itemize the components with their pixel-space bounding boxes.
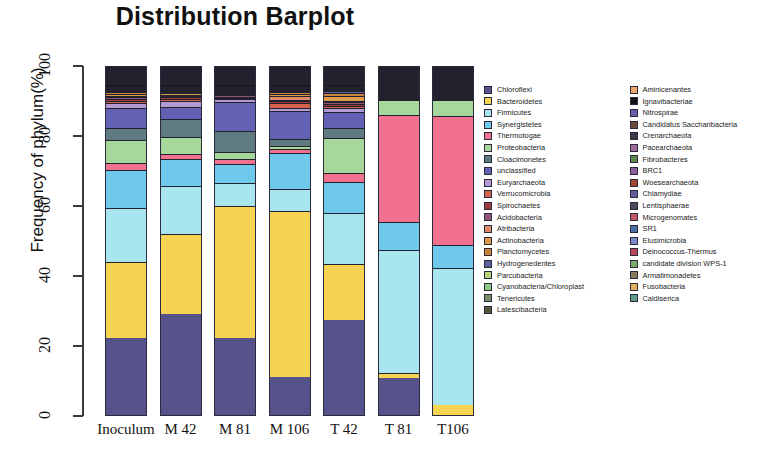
stacked-bar[interactable] [160, 66, 202, 416]
bar-segment[interactable] [433, 100, 473, 116]
bar-segment[interactable] [161, 137, 201, 154]
bar-segment[interactable] [215, 164, 255, 183]
legend-label: BRC1 [643, 167, 663, 174]
legend-item[interactable]: Nitrospirae [630, 107, 775, 119]
legend-item[interactable]: Pacearchaeota [630, 142, 775, 154]
legend-item[interactable]: Cloacimonetes [484, 154, 630, 166]
bar-segment[interactable] [215, 102, 255, 131]
bar-segment[interactable] [161, 107, 201, 119]
bar-segment[interactable] [270, 153, 310, 190]
legend-item[interactable]: Hydrogenedentes [484, 258, 630, 270]
legend-swatch-icon [630, 97, 638, 105]
stacked-bar[interactable] [378, 66, 420, 416]
bar-segment[interactable] [106, 128, 146, 140]
legend-item[interactable]: Armatimonadetes [630, 270, 775, 282]
bar-segment[interactable] [215, 338, 255, 415]
bar-segment[interactable] [324, 138, 364, 173]
bar-segment[interactable] [106, 262, 146, 339]
bar-segment[interactable] [324, 173, 364, 182]
stacked-bar[interactable] [323, 66, 365, 416]
legend-item[interactable]: Tenericutes [484, 293, 630, 305]
bar-segment[interactable] [161, 119, 201, 137]
bar-segment[interactable] [379, 222, 419, 249]
legend-item[interactable]: Synergistetes [484, 119, 630, 131]
legend-item[interactable]: Acidobacteria [484, 212, 630, 224]
bar-segment[interactable] [215, 131, 255, 152]
bar-segment[interactable] [106, 170, 146, 208]
bar-segment[interactable] [270, 377, 310, 415]
bar-segment[interactable] [433, 116, 473, 245]
legend-item[interactable]: Latescibacteria [484, 304, 630, 316]
legend-item[interactable]: Chlamydiae [630, 188, 775, 200]
bar-segment[interactable] [270, 111, 310, 139]
bar-segment[interactable] [324, 264, 364, 319]
legend-item[interactable]: Candidatus Saccharibacteria [630, 119, 775, 131]
legend-item[interactable]: Fusobacteria [630, 281, 775, 293]
legend-item[interactable]: Actinobacteria [484, 235, 630, 247]
bar-segment[interactable] [270, 139, 310, 146]
legend-label: Hydrogenedentes [497, 260, 555, 267]
legend-item[interactable]: Atribacteria [484, 223, 630, 235]
legend-item[interactable]: Microgenomates [630, 212, 775, 224]
legend-item[interactable]: candidate division WPS-1 [630, 258, 775, 270]
legend-item[interactable]: Lentisphaerae [630, 200, 775, 212]
stacked-bar[interactable] [214, 66, 256, 416]
bar-segment[interactable] [379, 250, 419, 374]
bar-segment[interactable] [379, 100, 419, 114]
bar-segment[interactable] [324, 112, 364, 129]
bar-segment[interactable] [270, 189, 310, 211]
bar-segment[interactable] [161, 159, 201, 186]
bar-segment[interactable] [270, 211, 310, 377]
legend-item[interactable]: Ignavibacteriae [630, 96, 775, 108]
legend-item[interactable]: Aminicenantes [630, 84, 775, 96]
bar-segment[interactable] [106, 163, 146, 170]
legend-item[interactable]: Euryarchaeota [484, 177, 630, 189]
bar-segment[interactable] [161, 101, 201, 108]
bar-segment[interactable] [215, 183, 255, 207]
bar-segment[interactable] [324, 128, 364, 137]
legend-label: Candidatus Saccharibacteria [643, 121, 738, 128]
legend-item[interactable]: Deinococcus-Thermus [630, 246, 775, 258]
bar-segment[interactable] [161, 186, 201, 234]
bar-segment[interactable] [379, 378, 419, 415]
bar-segment[interactable] [215, 206, 255, 338]
legend-item[interactable]: SR1 [630, 223, 775, 235]
y-axis-line [82, 66, 84, 416]
bar-segment[interactable] [161, 314, 201, 415]
legend-item[interactable]: Woesearchaeota [630, 177, 775, 189]
bar-segment[interactable] [106, 140, 146, 163]
legend-item[interactable]: Planctomycetes [484, 246, 630, 258]
bar-segment[interactable] [161, 234, 201, 314]
bar-segment[interactable] [379, 115, 419, 223]
bar-segment[interactable] [433, 245, 473, 268]
legend-item[interactable]: Parcubacteria [484, 270, 630, 282]
legend-item[interactable]: Cyanobacteria/Chloroplast [484, 281, 630, 293]
legend-item[interactable]: BRC1 [630, 165, 775, 177]
legend-item[interactable]: Proteobacteria [484, 142, 630, 154]
stacked-bar[interactable] [269, 66, 311, 416]
bar-segment[interactable] [324, 213, 364, 264]
legend-item[interactable]: Fibrobacteres [630, 154, 775, 166]
legend-item[interactable]: unclassified [484, 165, 630, 177]
bar-segment[interactable] [433, 268, 473, 405]
bar-segment[interactable] [106, 108, 146, 128]
bar-segment[interactable] [106, 208, 146, 261]
bar-segment[interactable] [215, 152, 255, 159]
legend-item[interactable]: Spirochaetes [484, 200, 630, 212]
legend-label: Tenericutes [497, 295, 535, 302]
bar-segment[interactable] [324, 320, 364, 416]
legend-item[interactable]: Caldiserica [630, 293, 775, 305]
stacked-bar[interactable] [432, 66, 474, 416]
legend-item[interactable]: Thermotogae [484, 130, 630, 142]
legend-item[interactable]: Bacteroidetes [484, 96, 630, 108]
legend-item[interactable]: Firmicutes [484, 107, 630, 119]
legend-item[interactable]: Chloroflexi [484, 84, 630, 96]
legend-item[interactable]: Verrucomicrobia [484, 188, 630, 200]
bar-segment[interactable] [106, 338, 146, 415]
stacked-bar[interactable] [105, 66, 147, 416]
bar-segment[interactable] [324, 182, 364, 213]
legend-item[interactable]: Crenarchaeota [630, 130, 775, 142]
bar-segment[interactable] [433, 405, 473, 415]
legend-item[interactable]: Elusimicrobia [630, 235, 775, 247]
distribution-barplot-figure: Distribution Barplot Frequency of phylum… [0, 0, 775, 455]
